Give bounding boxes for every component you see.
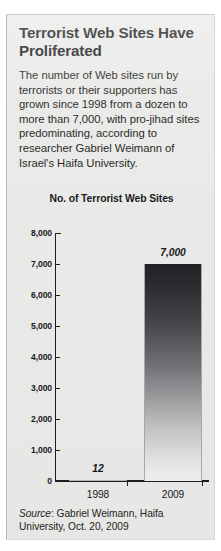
- x-tick-2009: [202, 481, 203, 486]
- y-tick-6000: [55, 295, 60, 296]
- y-tick-label-5000: 5,000: [8, 321, 52, 331]
- y-tick-label-0: 0: [8, 476, 52, 486]
- bar-value-2009: 7,000: [138, 247, 208, 258]
- source-label: Source: [19, 508, 51, 519]
- y-tick-5000: [55, 326, 60, 327]
- x-tick-1998: [127, 481, 128, 486]
- plot-area: 8,000 7,000 6,000 5,000 4,000 3,000 2,00…: [7, 193, 215, 493]
- y-tick-label-7000: 7,000: [8, 259, 52, 269]
- bar-2009: [144, 264, 202, 481]
- x-tick-label-1998: 1998: [68, 489, 128, 500]
- summary-paragraph: The number of Web sites run by terrorist…: [19, 68, 209, 170]
- bar-1998: [69, 480, 127, 481]
- y-tick-label-8000: 8,000: [8, 228, 52, 238]
- source-note: Source: Gabriel Weimann, Haifa Universit…: [19, 507, 209, 533]
- y-tick-3000: [55, 388, 60, 389]
- page-title: Terrorist Web Sites Have Proliferated: [19, 24, 207, 59]
- y-tick-label-2000: 2,000: [8, 414, 52, 424]
- y-tick-label-3000: 3,000: [8, 383, 52, 393]
- y-tick-7000: [55, 264, 60, 265]
- y-tick-2000: [55, 419, 60, 420]
- y-tick-4000: [55, 357, 60, 358]
- y-tick-label-4000: 4,000: [8, 352, 52, 362]
- bar-value-1998: 12: [63, 463, 133, 474]
- x-tick-label-2009: 2009: [143, 489, 203, 500]
- y-tick-label-6000: 6,000: [8, 290, 52, 300]
- bar-chart: No. of Terrorist Web Sites 8,000 7,000 6…: [7, 193, 215, 493]
- y-tick-1000: [55, 450, 60, 451]
- infographic-card: Terrorist Web Sites Have Proliferated Th…: [6, 14, 215, 540]
- y-tick-label-1000: 1,000: [8, 445, 52, 455]
- y-tick-8000: [55, 233, 61, 234]
